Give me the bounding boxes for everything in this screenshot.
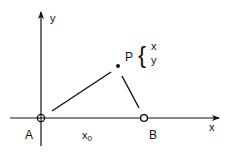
point-A-marker — [37, 114, 44, 121]
point-P-label: P — [125, 50, 133, 64]
link-A-P — [52, 72, 111, 111]
point-P-marker — [116, 64, 120, 68]
coordinate-x: x — [151, 40, 157, 52]
coordinate-y: y — [151, 54, 157, 66]
distance-x0-label: x0 — [82, 129, 93, 143]
x-axis-label: x — [209, 121, 215, 133]
x0-subscript: 0 — [88, 134, 93, 143]
point-B-label: B — [149, 128, 157, 142]
coordinate-brace: { — [138, 41, 146, 68]
point-A-label: A — [25, 128, 33, 142]
geometry-diagram: y x A B P { x y x0 — [0, 0, 228, 157]
P-coordinates: { x y — [138, 40, 157, 68]
link-P-B — [122, 76, 139, 108]
y-axis-label: y — [50, 12, 56, 24]
point-B-marker — [141, 115, 148, 122]
